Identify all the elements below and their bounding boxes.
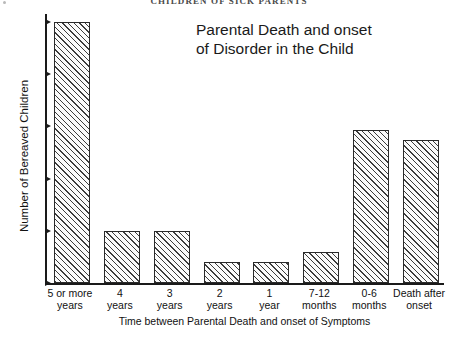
x-axis-category-labels: 5 or moreyears4years3years2years1year7-1… [45,287,444,315]
category-label-line-1: 1 [267,287,273,299]
bar [204,262,240,283]
category-label-line-1: 4 [117,287,123,299]
x-axis-label: Time between Parental Death and onset of… [45,315,444,327]
category-label-line-1: 7-12 [309,287,330,299]
running-head: CHILDREN OF SICK PARENTS [0,0,458,5]
category-label-line-1: 2 [217,287,223,299]
category-label-line-1: 0-6 [362,287,377,299]
bar [154,231,190,283]
chart-page: CHILDREN OF SICK PARENTS Parental Death … [0,0,458,338]
category-label-line-2: onset [388,299,450,311]
y-axis-label: Number of Bereaved Children [18,46,30,266]
category-label-line-1: 3 [167,287,173,299]
category-label-line-1: 5 or more [47,287,92,299]
bar-series [45,22,444,283]
category-label: Death afteronset [388,287,450,311]
category-label-line-1: Death after [393,287,445,299]
x-axis-line [45,283,444,285]
bar [403,140,439,283]
bar [104,231,140,283]
bar [54,22,90,283]
bar [353,130,389,283]
bar [303,252,339,283]
bar [253,262,289,283]
